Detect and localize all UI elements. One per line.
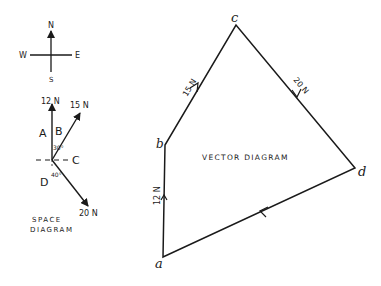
force-15n-label: 15 N <box>70 101 89 110</box>
compass-east-label: E <box>75 51 80 60</box>
point-c-label: c <box>231 10 239 25</box>
region-d-label: D <box>40 176 48 189</box>
region-a-label: A <box>39 127 47 140</box>
compass-west-label: W <box>19 51 27 60</box>
force-12n-label: 12 N <box>41 97 60 106</box>
compass: N S W E <box>19 21 80 84</box>
point-b-label: b <box>156 137 164 151</box>
angle-30-label: 30° <box>53 144 64 151</box>
space-diagram-title-line1: SPACE <box>32 216 62 224</box>
region-c-label: C <box>72 154 80 167</box>
region-b-label: B <box>55 125 63 138</box>
vector-diagram: 12 N 15 N 20 N a b c d VECTOR DIAGRAM <box>153 10 366 271</box>
vector-polygon <box>163 25 355 257</box>
force-20n-arrow-icon <box>52 160 88 206</box>
space-diagram: 12 N 15 N 20 N A B C D 30° 40° SPACE DIA… <box>30 97 98 234</box>
compass-north-label: N <box>48 21 54 30</box>
point-a-label: a <box>155 256 163 271</box>
vector-diagram-title: VECTOR DIAGRAM <box>202 153 289 162</box>
point-d-label: d <box>358 164 366 179</box>
vector-bc-label: 15 N <box>181 77 198 98</box>
angle-40-label: 40° <box>51 171 62 178</box>
force-20n-label: 20 N <box>79 209 98 218</box>
vector-ab-label: 12 N <box>153 186 162 205</box>
space-diagram-title-line2: DIAGRAM <box>30 226 73 234</box>
compass-south-label: S <box>49 76 54 84</box>
diagram-canvas: N S W E 12 N 15 N 20 N A B C D 30° 40° S… <box>0 0 381 286</box>
